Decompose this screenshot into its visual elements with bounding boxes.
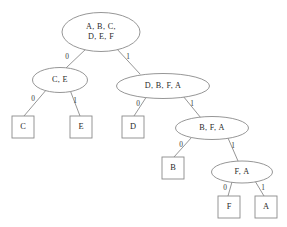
edge-label-e-root-ce: 0	[65, 52, 69, 61]
tree-leaf-leaf-a[interactable]: A	[255, 196, 277, 218]
edge-label-e-bfa-fa: 1	[231, 141, 235, 150]
node-label-root-line2: D, E, F	[88, 32, 114, 41]
tree-leaf-leaf-c[interactable]: C	[12, 116, 34, 138]
edge-label-e-fa-f: 0	[223, 183, 227, 192]
binary-tree-diagram: 0101010101 A, B, C,D, E, FC, ED, B, F, A…	[0, 0, 287, 227]
tree-edge-root-to-n-ce	[66, 48, 87, 68]
tree-node-n-ce[interactable]: C, E	[33, 68, 88, 93]
tree-leaf-leaf-f[interactable]: F	[218, 196, 240, 218]
leaf-label-leaf-b: B	[170, 163, 176, 172]
tree-leaf-leaf-b[interactable]: B	[162, 157, 184, 179]
tree-edge-n-ce-to-leaf-c	[24, 89, 47, 116]
node-label-n-dbfa-line1: D, B, F, A	[145, 81, 182, 90]
tree-node-n-bfa[interactable]: B, F, A	[176, 117, 249, 140]
tree-canvas: 0101010101 A, B, C,D, E, FC, ED, B, F, A…	[0, 0, 287, 227]
leaf-label-leaf-d: D	[130, 122, 136, 131]
leaf-label-leaf-f: F	[227, 202, 232, 211]
tree-edge-n-fa-to-leaf-f	[228, 182, 232, 196]
edge-label-e-root-dbfa: 1	[126, 52, 130, 61]
tree-node-root[interactable]: A, B, C,D, E, F	[62, 13, 140, 52]
edge-label-e-ce-c: 0	[31, 94, 35, 103]
tree-leaf-leaf-e[interactable]: E	[70, 116, 92, 138]
edge-label-e-dbfa-d: 0	[136, 99, 140, 108]
leaf-label-leaf-a: A	[263, 202, 269, 211]
tree-leaf-leaf-d[interactable]: D	[122, 116, 144, 138]
node-label-n-ce-line1: C, E	[52, 75, 68, 84]
tree-edge-n-bfa-to-leaf-b	[174, 137, 192, 157]
edge-label-e-bfa-b: 0	[179, 140, 183, 149]
edge-label-e-ce-e: 1	[73, 96, 77, 105]
node-label-n-fa-line1: F, A	[235, 167, 250, 176]
edge-label-e-dbfa-bfa: 1	[190, 99, 194, 108]
tree-node-n-fa[interactable]: F, A	[212, 161, 273, 183]
node-label-root-line1: A, B, C,	[86, 22, 116, 31]
leaf-label-leaf-c: C	[20, 122, 26, 131]
leaf-label-leaf-e: E	[78, 122, 83, 131]
node-label-n-bfa-line1: B, F, A	[199, 123, 224, 132]
edge-label-e-fa-a: 1	[261, 183, 265, 192]
tree-node-n-dbfa[interactable]: D, B, F, A	[117, 74, 210, 99]
